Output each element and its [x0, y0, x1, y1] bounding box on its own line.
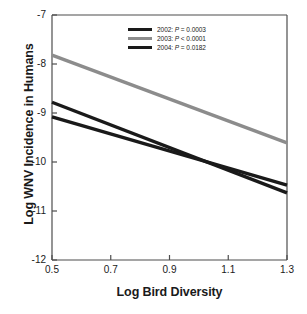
y-tick-label: -10 [12, 157, 46, 167]
legend-label-2004: 2004: P = 0.0182 [157, 44, 206, 51]
x-tick-label: 0.7 [91, 265, 131, 275]
x-axis-title: Log Bird Diversity [52, 285, 287, 299]
legend-swatch-2004 [128, 46, 152, 49]
series-line-2003 [52, 55, 287, 143]
chart-figure: Log WNV Incidence in Humans Log Bird Div… [0, 0, 307, 314]
legend-item-2003: 2003: P < 0.0001 [128, 34, 248, 42]
legend-label-2003: 2003: P < 0.0001 [157, 35, 206, 42]
y-tick-label: -7 [12, 10, 46, 20]
y-tick-label: -8 [12, 59, 46, 69]
legend-swatch-2003 [128, 37, 152, 40]
x-tick-label: 1.1 [208, 265, 248, 275]
y-tick-label: -11 [12, 206, 46, 216]
y-axis-tick-labels: -7-8-9-10-11-12 [8, 15, 46, 260]
legend-label-2002: 2002: P = 0.0003 [157, 26, 206, 33]
legend-item-2004: 2004: P = 0.0182 [128, 43, 248, 51]
series-lines [52, 55, 287, 193]
legend-swatch-2002 [128, 28, 152, 31]
x-tick-label: 1.3 [267, 265, 307, 275]
series-line-2004 [52, 117, 287, 185]
y-tick-label: -9 [12, 108, 46, 118]
series-line-2002 [52, 102, 287, 193]
legend: 2002: P = 0.00032003: P < 0.00012004: P … [128, 25, 248, 52]
x-tick-label: 0.9 [150, 265, 190, 275]
x-tick-label: 0.5 [32, 265, 72, 275]
legend-item-2002: 2002: P = 0.0003 [128, 25, 248, 33]
x-axis-tick-labels: 0.50.70.91.11.3 [52, 265, 287, 281]
y-tick-label: -12 [12, 255, 46, 265]
